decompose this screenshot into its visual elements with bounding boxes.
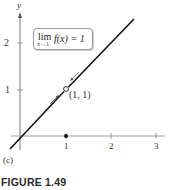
open-circle-hole bbox=[64, 87, 69, 92]
point-label: (1, 1) bbox=[69, 90, 91, 100]
limit-callout: lim x→1 f(x) = 1 bbox=[33, 28, 93, 50]
limit-subscript: x→1 bbox=[37, 41, 49, 47]
function-line-left bbox=[10, 92, 64, 150]
y-axis-arrow-icon bbox=[18, 12, 22, 18]
x-tick-label-1: 1 bbox=[64, 142, 69, 151]
panel-label: (c) bbox=[3, 156, 13, 165]
y-tick-label-2: 2 bbox=[4, 38, 9, 48]
y-axis-label: y bbox=[17, 1, 21, 10]
figure-caption: FIGURE 1.49 bbox=[1, 176, 66, 188]
filled-point bbox=[64, 134, 68, 138]
limit-expression: f(x) = 1 bbox=[54, 33, 85, 44]
y-tick-label-1: 1 bbox=[5, 85, 10, 95]
x-tick-label-3: 3 bbox=[154, 142, 159, 151]
x-tick-label-2: 2 bbox=[109, 142, 114, 151]
